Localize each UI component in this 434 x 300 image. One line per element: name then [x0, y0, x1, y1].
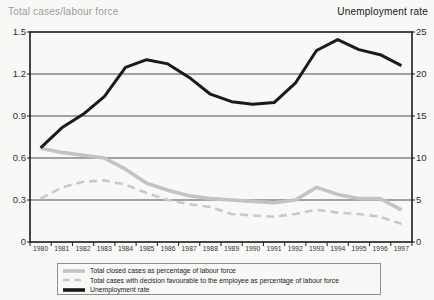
chart-figure: Total cases/labour force Unemployment ra…: [0, 0, 434, 300]
right-axis-tick-label: 5: [416, 195, 421, 205]
x-axis-year-label: 1995: [348, 245, 370, 252]
x-axis-year-label: 1990: [242, 245, 264, 252]
left-axis-tick-label: 1.5: [2, 27, 26, 37]
legend-item: Unemployment rate: [62, 285, 376, 295]
right-axis-tick-label: 15: [416, 111, 427, 121]
gridlines: [30, 74, 412, 200]
plot-frame: [30, 32, 412, 242]
legend-label: Total closed cases as percentage of labo…: [90, 266, 236, 275]
x-axis-year-label: 1983: [93, 245, 115, 252]
left-axis-tick-label: 1.2: [2, 69, 26, 79]
left-axis-tick-label: 0.9: [2, 111, 26, 121]
legend-item: Total closed cases as percentage of labo…: [62, 266, 376, 276]
left-axis-tick-label: 0: [2, 237, 26, 247]
x-axis-year-label: 1994: [327, 245, 349, 252]
x-axis-year-label: 1988: [199, 245, 221, 252]
legend-box: Total closed cases as percentage of labo…: [57, 263, 381, 295]
legend-key-line: [62, 276, 86, 284]
plot-border: [30, 32, 412, 242]
x-axis-year-label: 1984: [115, 245, 137, 252]
right-axis-tick-label: 0: [416, 237, 421, 247]
legend-label: Total cases with decision favourable to …: [90, 276, 339, 285]
x-axis-year-label: 1993: [306, 245, 328, 252]
legend-label: Unemployment rate: [90, 285, 149, 294]
x-axis-year-label: 1986: [157, 245, 179, 252]
x-axis-year-label: 1980: [30, 245, 52, 252]
x-axis-year-label: 1991: [263, 245, 285, 252]
axis-tick-marks: [27, 32, 415, 246]
x-axis-year-label: 1992: [284, 245, 306, 252]
left-axis-tick-label: 0.3: [2, 195, 26, 205]
legend-key-line: [62, 286, 86, 294]
series-line-2: [41, 40, 402, 148]
x-axis-year-label: 1996: [369, 245, 391, 252]
x-axis-year-label: 1982: [72, 245, 94, 252]
legend-item: Total cases with decision favourable to …: [62, 276, 376, 286]
x-axis-year-label: 1989: [221, 245, 243, 252]
series-line-1: [41, 180, 402, 223]
left-axis-title: Total cases/labour force: [8, 6, 118, 17]
x-axis-year-label: 1985: [136, 245, 158, 252]
plot-area: [0, 0, 434, 300]
right-axis-tick-label: 25: [416, 27, 427, 37]
right-axis-tick-label: 20: [416, 69, 427, 79]
series-line-0: [41, 148, 402, 210]
x-axis-year-label: 1981: [51, 245, 73, 252]
x-axis-year-label: 1997: [390, 245, 412, 252]
left-axis-tick-label: 0.6: [2, 153, 26, 163]
data-series-lines: [41, 40, 402, 224]
legend-key-line: [62, 267, 86, 275]
right-axis-title: Unemployment rate: [337, 6, 428, 17]
x-axis-year-label: 1987: [178, 245, 200, 252]
right-axis-tick-label: 10: [416, 153, 427, 163]
